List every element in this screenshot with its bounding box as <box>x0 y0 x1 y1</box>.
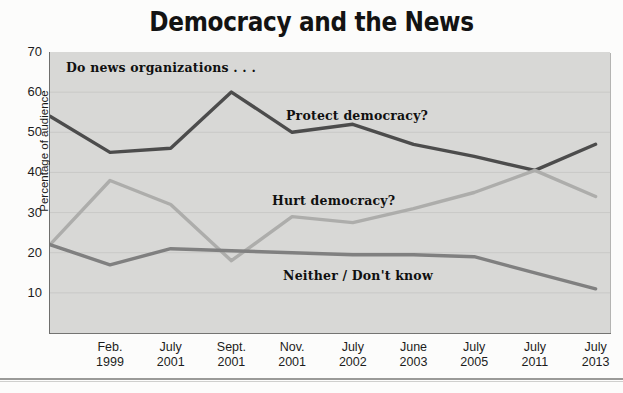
x-tick-label: Sept.2001 <box>196 340 266 370</box>
x-tick-year: 2011 <box>500 355 570 370</box>
x-tick-month: Feb. <box>75 340 145 355</box>
x-tick-year: 2001 <box>196 355 266 370</box>
y-tick-label: 70 <box>8 45 42 58</box>
x-tick-year: 2003 <box>379 355 449 370</box>
chart-annotation: Hurt democracy? <box>272 193 395 208</box>
x-tick-year: 2001 <box>257 355 327 370</box>
x-tick-label: June2003 <box>379 340 449 370</box>
x-tick-label: July2005 <box>439 340 509 370</box>
x-tick-year: 2013 <box>561 355 623 370</box>
chart-figure: Democracy and the News Percentage of aud… <box>0 0 623 393</box>
x-axis-spine <box>49 333 611 334</box>
y-tick-label: 20 <box>8 246 42 259</box>
footer-divider <box>0 378 623 380</box>
chart-annotation: Do news organizations . . . <box>66 60 256 75</box>
x-tick-label: July2013 <box>561 340 623 370</box>
footer-divider-shadow <box>0 381 623 382</box>
y-tick-label: 30 <box>8 206 42 219</box>
y-tick-label: 60 <box>8 85 42 98</box>
chart-annotation: Protect democracy? <box>286 108 428 123</box>
x-tick-label: Nov.2001 <box>257 340 327 370</box>
x-tick-month: June <box>379 340 449 355</box>
x-tick-month: Nov. <box>257 340 327 355</box>
y-tick-label: 40 <box>8 165 42 178</box>
y-tick-label: 10 <box>8 286 42 299</box>
x-tick-label: July2002 <box>318 340 388 370</box>
series-line <box>50 170 596 260</box>
x-tick-year: 2002 <box>318 355 388 370</box>
x-tick-month: July <box>439 340 509 355</box>
x-tick-label: July2011 <box>500 340 570 370</box>
x-tick-month: July <box>500 340 570 355</box>
page-title: Democracy and the News <box>44 6 580 37</box>
y-tick-label: 50 <box>8 125 42 138</box>
x-tick-month: July <box>136 340 206 355</box>
x-tick-year: 2005 <box>439 355 509 370</box>
x-tick-label: Feb.1999 <box>75 340 145 370</box>
y-axis-label: Percentage of audience <box>38 51 50 251</box>
series-line <box>50 92 596 170</box>
x-tick-month: July <box>561 340 623 355</box>
x-tick-label: July2001 <box>136 340 206 370</box>
chart-annotation: Neither / Don't know <box>283 268 433 283</box>
x-tick-month: July <box>318 340 388 355</box>
x-tick-year: 2001 <box>136 355 206 370</box>
x-tick-month: Sept. <box>196 340 266 355</box>
x-tick-year: 1999 <box>75 355 145 370</box>
